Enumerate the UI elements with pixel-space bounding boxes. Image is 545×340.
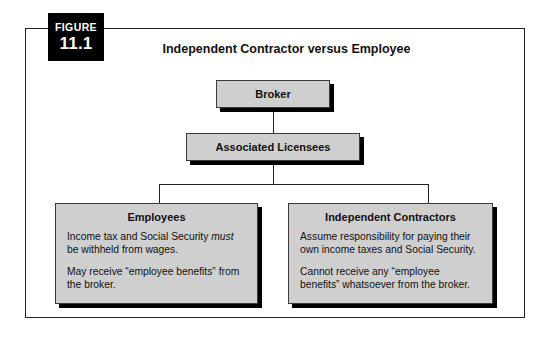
connector-to-contractors	[428, 184, 429, 203]
figure-badge-number: 11.1	[60, 35, 93, 52]
connector-broker-to-licensees	[273, 112, 274, 133]
employees-text-emphasis: must	[211, 231, 233, 242]
node-contractors-paragraph-1: Assume responsibility for paying their o…	[300, 230, 481, 256]
node-broker-label: Broker	[255, 88, 290, 100]
connector-to-employees	[159, 184, 160, 203]
node-employees-label: Employees	[67, 211, 246, 223]
figure-badge-word: FIGURE	[55, 22, 97, 33]
employees-text-before: Income tax and Social Security	[67, 231, 211, 242]
node-associated-licensees: Associated Licensees	[186, 133, 360, 161]
node-employees-paragraph-1: Income tax and Social Security must be w…	[67, 230, 246, 256]
node-employees-paragraph-2: May receive “employee benefits” from the…	[67, 265, 246, 291]
node-associated-licensees-label: Associated Licensees	[216, 141, 331, 153]
connector-licensees-stem	[273, 165, 274, 184]
connector-horizontal-bus	[159, 184, 428, 185]
node-broker: Broker	[216, 80, 330, 108]
node-independent-contractors: Independent Contractors Assume responsib…	[288, 203, 493, 304]
figure-container: FIGURE 11.1 Independent Contractor versu…	[0, 0, 545, 340]
figure-number-badge: FIGURE 11.1	[48, 13, 104, 61]
node-independent-contractors-label: Independent Contractors	[300, 211, 481, 223]
node-contractors-paragraph-2: Cannot receive any “employee benefits” w…	[300, 265, 481, 291]
node-employees: Employees Income tax and Social Security…	[55, 203, 258, 304]
employees-text-after: be withheld from wages.	[67, 244, 178, 255]
